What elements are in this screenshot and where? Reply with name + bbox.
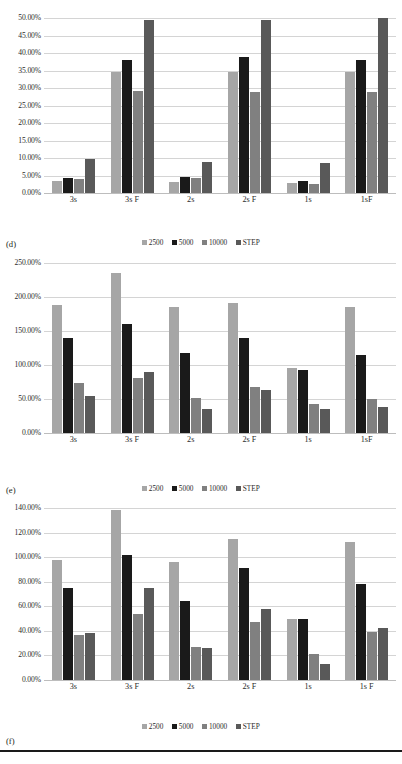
chart-d-gridline [44,123,396,124]
chart-d-ytick-label: 45.00% [18,32,41,40]
chart-e-ytick-label: 100.00% [14,361,41,369]
chart-e-gridlines [44,263,396,433]
legend-swatch-icon [202,240,207,245]
chart-f: 0.00%20.00%40.00%60.00%80.00%100.00%120.… [0,508,402,698]
chart-d-gridline [44,18,396,19]
chart-d-ytick-label: 0.00% [22,189,41,197]
chart-f-plot: 0.00%20.00%40.00%60.00%80.00%100.00%120.… [0,508,402,680]
chart-f-gridline [44,631,396,632]
chart-d-xtick-label: 3s [44,196,103,204]
chart-f-ytick-label: 0.00% [22,676,41,684]
chart-d-gridline [44,176,396,177]
chart-e-ytick-label: 0.00% [22,429,41,437]
chart-f-ytick-label: 40.00% [18,627,41,635]
chart-e-xtick-label: 1sF [337,436,396,444]
chart-d-x-axis: 3s3s F2s2s F1s1sF [44,196,396,204]
chart-d-xtick-label: 2s [161,196,220,204]
chart-e: 0.00%50.00%100.00%150.00%200.00%250.00% … [0,263,402,453]
chart-d-ytick-label: 30.00% [18,84,41,92]
chart-e-ytick-label: 250.00% [14,259,41,267]
figure-d: 0.00%5.00%10.00%15.00%20.00%25.00%30.00%… [0,0,402,258]
chart-d-gridlines [44,18,396,193]
chart-d-xtick-label: 2s F [220,196,279,204]
chart-e-xtick-label: 2s F [220,436,279,444]
chart-d: 0.00%5.00%10.00%15.00%20.00%25.00%30.00%… [0,18,402,208]
chart-d-ytick-label: 25.00% [18,102,41,110]
figure-e: 0.00%50.00%100.00%150.00%200.00%250.00% … [0,263,402,508]
chart-d-gridline [44,36,396,37]
chart-f-xtick-label: 3s [44,683,103,691]
chart-f-ytick-label: 100.00% [14,553,41,561]
chart-f-ytick-label: 60.00% [18,602,41,610]
legend-item-10000: 10000 [202,484,227,493]
legend-label: STEP [243,238,260,247]
page-bottom-rule [0,750,402,752]
chart-e-ytick-label: 200.00% [14,293,41,301]
caption-e: (e) [6,485,16,495]
chart-e-gridline [44,263,396,264]
chart-e-ytick-label: 50.00% [18,395,41,403]
caption-f: (f) [6,736,15,746]
chart-f-gridline [44,680,396,681]
chart-e-xtick-label: 3s F [103,436,162,444]
chart-d-gridline [44,88,396,89]
legend-label: 5000 [179,484,194,493]
legend-label: 10000 [209,238,227,247]
chart-f-xtick-label: 2s F [220,683,279,691]
chart-d-xtick-label: 1sF [337,196,396,204]
chart-d-ytick-label: 5.00% [22,172,41,180]
legend-swatch-icon [142,240,147,245]
chart-f-ytick-label: 140.00% [14,504,41,512]
chart-d-gridline [44,53,396,54]
legend-swatch-icon [202,724,207,729]
legend-item-STEP: STEP [236,484,260,493]
chart-f-ytick-label: 20.00% [18,652,41,660]
legend-swatch-icon [202,486,207,491]
chart-f-gridline [44,508,396,509]
chart-e-gridline [44,297,396,298]
legend-swatch-icon [172,724,177,729]
chart-f-gridlines [44,508,396,680]
legend-label: STEP [243,722,260,731]
chart-f-gridline [44,533,396,534]
legend-item-5000: 5000 [172,238,193,247]
legend-item-2500: 2500 [142,238,163,247]
figure-page: 0.00%5.00%10.00%15.00%20.00%25.00%30.00%… [0,0,402,764]
chart-f-xtick-label: 1s [279,683,338,691]
legend-item-5000: 5000 [172,722,193,731]
chart-d-gridline [44,158,396,159]
legend-label: 2500 [149,722,164,731]
legend-item-5000: 5000 [172,484,193,493]
chart-e-gridline [44,399,396,400]
chart-e-gridline [44,331,396,332]
legend-item-2500: 2500 [142,484,163,493]
legend-swatch-icon [236,240,241,245]
chart-e-legend: 2500500010000STEP [0,484,402,493]
legend-label: STEP [243,484,260,493]
legend-label: 2500 [149,238,164,247]
chart-d-ytick-label: 50.00% [18,14,41,22]
chart-e-plot: 0.00%50.00%100.00%150.00%200.00%250.00% [0,263,402,433]
chart-d-xtick-label: 3s F [103,196,162,204]
chart-d-y-axis: 0.00%5.00%10.00%15.00%20.00%25.00%30.00%… [0,18,44,193]
chart-f-y-axis: 0.00%20.00%40.00%60.00%80.00%100.00%120.… [0,508,44,680]
legend-swatch-icon [142,724,147,729]
chart-f-gridline [44,655,396,656]
legend-swatch-icon [172,486,177,491]
chart-e-xtick-label: 2s [161,436,220,444]
chart-f-gridline [44,606,396,607]
chart-d-ytick-label: 40.00% [18,49,41,57]
chart-f-ytick-label: 80.00% [18,578,41,586]
chart-f-xtick-label: 2s [161,683,220,691]
chart-e-xtick-label: 1s [279,436,338,444]
legend-label: 5000 [179,722,194,731]
legend-item-10000: 10000 [202,722,227,731]
legend-swatch-icon [236,486,241,491]
chart-f-ytick-label: 120.00% [14,529,41,537]
legend-label: 2500 [149,484,164,493]
legend-label: 10000 [209,484,227,493]
chart-f-xtick-label: 3s F [103,683,162,691]
chart-d-ytick-label: 20.00% [18,119,41,127]
chart-f-x-axis: 3s3s F2s2s F1s1s F [44,683,396,691]
legend-swatch-icon [236,724,241,729]
